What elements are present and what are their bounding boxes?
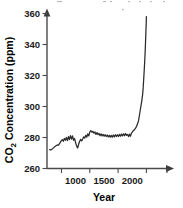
x-axis-tick-labels: 1000 1500 2000	[65, 175, 143, 186]
y-axis-tick-labels: 260 280 300 320 340 360	[24, 8, 40, 174]
co2-series-line	[50, 17, 147, 150]
y-axis	[44, 9, 51, 169]
x-axis	[47, 165, 174, 172]
y-tick-label-280: 280	[24, 132, 40, 143]
y-axis-title-prefix: CO	[3, 147, 15, 163]
co2-concentration-chart: CO2 Concentration (ppm) 260 280 300	[0, 0, 183, 208]
y-axis-title: CO2 Concentration (ppm)	[3, 37, 18, 163]
y-tick-label-300: 300	[24, 101, 40, 112]
y-tick-label-260: 260	[24, 163, 40, 174]
x-tick-label-2000: 2000	[122, 175, 143, 186]
y-tick-label-340: 340	[24, 39, 40, 50]
x-tick-label-1000: 1000	[65, 175, 86, 186]
chart-svg: CO2 Concentration (ppm) 260 280 300	[0, 0, 183, 208]
x-tick-label-1500: 1500	[93, 175, 114, 186]
svg-text:CO2 Concentration (ppm): CO2 Concentration (ppm)	[3, 37, 18, 163]
scan-artifacts	[57, 1, 165, 10]
y-axis-title-suffix: Concentration (ppm)	[3, 37, 15, 143]
x-axis-title: Year	[93, 191, 115, 203]
y-tick-label-320: 320	[24, 70, 40, 81]
y-tick-label-360: 360	[24, 8, 40, 19]
